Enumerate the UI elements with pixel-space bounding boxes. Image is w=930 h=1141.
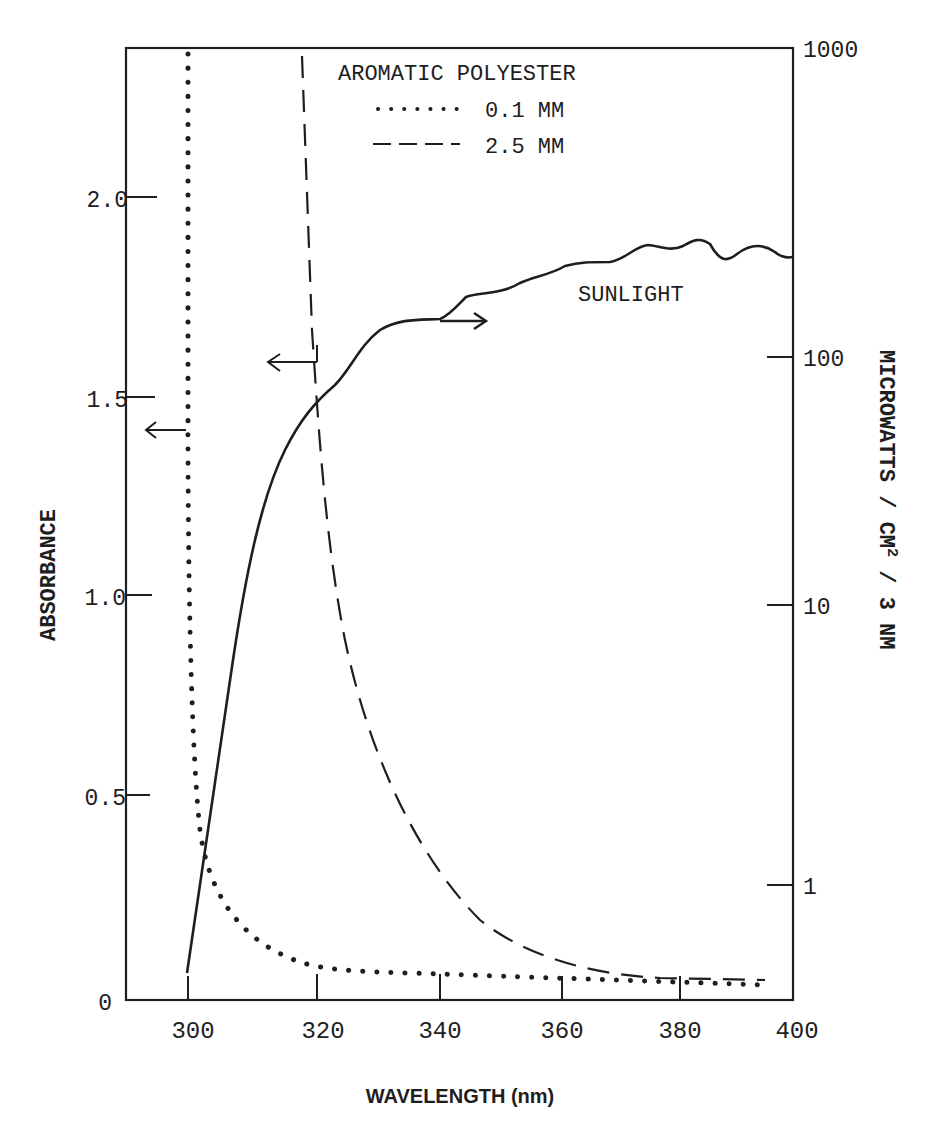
left-y-tick-labels: 0 0.5 1.0 1.5 2.0 <box>85 188 128 1017</box>
y-tick-1.5: 1.5 <box>87 388 128 414</box>
x-tick-300: 300 <box>171 1018 214 1045</box>
legend-item-0.1mm: 0.1 MM <box>485 99 564 124</box>
right-y-axis <box>767 357 793 885</box>
series-sunlight <box>187 240 793 973</box>
y-axis-title: ABSORBANCE <box>37 509 62 641</box>
y-right-tick-10: 10 <box>803 595 831 621</box>
series-0.1mm-dotted <box>188 54 765 985</box>
series-2.5mm-dashed <box>302 56 765 980</box>
x-axis <box>188 974 680 1000</box>
x-tick-400: 400 <box>775 1018 818 1045</box>
sunlight-label: SUNLIGHT <box>578 283 684 308</box>
x-axis-title: WAVELENGTH (nm) <box>366 1085 555 1107</box>
x-tick-320: 320 <box>301 1018 344 1045</box>
arrow-2.5mm-to-left-axis <box>268 345 317 371</box>
y-right-tick-1: 1 <box>803 875 817 901</box>
plot-frame <box>126 48 793 1000</box>
y-tick-0.5: 0.5 <box>85 786 126 812</box>
arrow-0.1mm-to-left-axis <box>146 422 186 438</box>
x-tick-340: 340 <box>418 1018 461 1045</box>
x-tick-380: 380 <box>658 1018 701 1045</box>
y-right-axis-title: MICROWATTS / CM2 / 3 NM <box>873 350 900 649</box>
x-tick-labels: 300 320 340 360 380 400 <box>171 1018 818 1045</box>
y-tick-0: 0 <box>98 991 112 1017</box>
legend-item-2.5mm: 2.5 MM <box>485 135 564 160</box>
absorbance-sunlight-chart: 0 0.5 1.0 1.5 2.0 ABSORBANCE 1000 100 10… <box>0 0 930 1141</box>
y-right-tick-1000: 1000 <box>803 38 858 64</box>
y-tick-1.0: 1.0 <box>85 586 126 612</box>
x-tick-360: 360 <box>540 1018 583 1045</box>
legend-title: AROMATIC POLYESTER <box>338 62 576 87</box>
y-tick-2.0: 2.0 <box>87 188 128 214</box>
left-y-axis <box>126 197 157 795</box>
legend: AROMATIC POLYESTER 0.1 MM 2.5 MM <box>338 62 576 160</box>
y-right-tick-100: 100 <box>803 347 844 373</box>
right-y-tick-labels: 1000 100 10 1 <box>803 38 858 901</box>
